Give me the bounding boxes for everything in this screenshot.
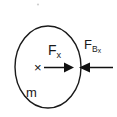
- applied-force-label-base: F: [48, 42, 57, 58]
- reaction-force-arrow: [79, 63, 113, 73]
- applied-force-label: Fx: [48, 43, 61, 57]
- reaction-force-label: FBx: [84, 38, 101, 51]
- free-body-diagram: × Fx FBx m: [0, 0, 117, 117]
- center-of-mass-marker: ×: [34, 61, 42, 74]
- reaction-force-label-base: F: [84, 37, 92, 52]
- reaction-force-label-subscript-base: B: [92, 44, 98, 54]
- applied-force-label-subscript: x: [57, 50, 62, 60]
- scan-speck: [37, 3, 39, 5]
- applied-force-arrow: [44, 63, 74, 73]
- reaction-force-label-subscript-nested: x: [98, 47, 101, 54]
- reaction-force-label-subscript: Bx: [92, 44, 101, 54]
- mass-label: m: [26, 86, 37, 99]
